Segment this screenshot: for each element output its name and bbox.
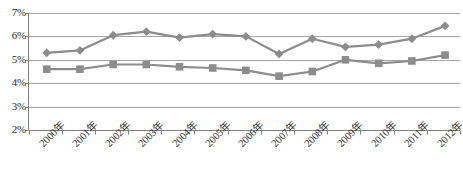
series-2	[43, 51, 449, 80]
data-point-marker	[374, 40, 383, 49]
data-point-marker	[76, 46, 85, 55]
data-point-marker	[441, 21, 450, 30]
y-axis-tick-label: 6%	[0, 30, 26, 41]
y-axis-tick-label: 4%	[0, 77, 26, 88]
data-point-marker	[209, 64, 217, 72]
data-point-marker	[176, 63, 184, 71]
data-point-marker	[341, 43, 350, 52]
data-point-marker	[408, 57, 416, 65]
data-point-marker	[109, 31, 118, 40]
chart-canvas	[0, 0, 463, 196]
data-point-marker	[208, 30, 217, 39]
data-point-marker	[342, 56, 350, 64]
data-point-marker	[275, 72, 283, 80]
series-layer	[42, 21, 449, 80]
data-point-marker	[43, 65, 51, 73]
y-axis-tick-label: 2%	[0, 124, 26, 135]
y-axis-tick-label: 5%	[0, 54, 26, 65]
data-point-marker	[308, 68, 316, 76]
data-point-marker	[175, 33, 184, 42]
data-point-marker	[109, 61, 117, 69]
data-point-marker	[375, 60, 383, 68]
y-axis-tick-label: 7%	[0, 7, 26, 18]
data-point-marker	[242, 32, 251, 41]
y-axis-tick-label: 3%	[0, 101, 26, 112]
data-point-marker	[142, 27, 151, 36]
data-point-marker	[441, 51, 449, 59]
line-chart: 7%6%5%4%3%2% 2000年2001年2002年2003年2004年20…	[0, 0, 463, 196]
data-point-marker	[308, 34, 317, 43]
data-point-marker	[143, 61, 151, 69]
data-point-marker	[407, 34, 416, 43]
data-point-marker	[242, 67, 250, 75]
data-point-marker	[76, 65, 84, 73]
data-point-marker	[275, 50, 284, 59]
data-point-marker	[42, 48, 51, 57]
series-1	[42, 21, 449, 58]
